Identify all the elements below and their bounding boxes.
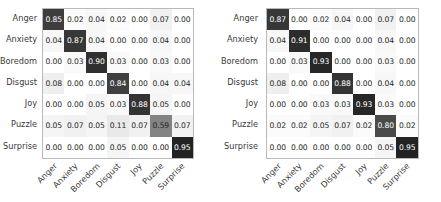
x-axis-tick-label: Joy: [353, 161, 369, 177]
heatmap-cell: 0.87: [64, 30, 85, 51]
heatmap-cell: 0.88: [332, 73, 354, 94]
x-axis-tick-labels-left: AngerAnxietyBoredomDisgustJoyPuzzleSurpr…: [42, 158, 194, 202]
heatmap-cell: 0.05: [86, 94, 107, 115]
heatmap-cell: 0.00: [396, 30, 418, 51]
heatmap-cell: 0.11: [107, 115, 128, 136]
heatmap-cell: 0.90: [86, 52, 107, 73]
heatmap-cell: 0.04: [172, 73, 193, 94]
heatmap-cell: 0.00: [289, 94, 311, 115]
y-axis-tick-labels-left: AngerAnxietyBoredomDisgustJoyPuzzleSurpr…: [0, 8, 40, 157]
heatmap-cell: 0.93: [353, 94, 375, 115]
heatmap-cell: 0.05: [107, 137, 128, 158]
heatmap-cell: 0.02: [64, 9, 85, 30]
heatmap-cell: 0.04: [267, 30, 289, 51]
heatmap-cell: 0.87: [267, 9, 289, 30]
y-axis-tick-label: Anger: [13, 8, 37, 29]
heatmap-cell: 0.00: [396, 94, 418, 115]
y-axis-tick-label: Boredom: [0, 51, 37, 72]
heatmap-grid-left: 0.850.020.040.020.000.070.000.040.870.04…: [42, 8, 194, 159]
heatmap-cell: 0.08: [43, 73, 64, 94]
heatmap-cell: 0.00: [396, 52, 418, 73]
heatmap-cell: 0.03: [332, 94, 354, 115]
heatmap-cell: 0.02: [267, 115, 289, 136]
heatmap-cell: 0.05: [150, 94, 171, 115]
heatmap-cell: 0.07: [150, 9, 171, 30]
heatmap-cell: 0.00: [172, 9, 193, 30]
heatmap-cell: 0.00: [353, 9, 375, 30]
heatmap-cell: 0.03: [310, 94, 332, 115]
heatmap-cell: 0.03: [64, 52, 85, 73]
heatmap-cell: 0.03: [107, 94, 128, 115]
heatmap-cell: 0.59: [150, 115, 171, 136]
heatmap-cell: 0.03: [107, 52, 128, 73]
heatmap-cell: 0.03: [150, 52, 171, 73]
heatmap-cell: 0.00: [129, 52, 150, 73]
heatmap-cell: 0.02: [310, 9, 332, 30]
heatmap-cell: 0.04: [86, 9, 107, 30]
y-axis-tick-label: Joy: [25, 93, 37, 114]
y-axis-tick-label: Disgust: [6, 72, 37, 93]
heatmap-cell: 0.00: [129, 30, 150, 51]
heatmap-cell: 0.00: [129, 9, 150, 30]
heatmap-cell: 0.91: [289, 30, 311, 51]
x-axis-tick-label: Joy: [129, 161, 145, 177]
heatmap-cell: 0.00: [396, 73, 418, 94]
heatmap-cell: 0.00: [289, 9, 311, 30]
heatmap-cell: 0.04: [375, 30, 397, 51]
heatmap-cell: 0.00: [107, 30, 128, 51]
heatmap-cell: 0.00: [353, 30, 375, 51]
heatmap-cell: 0.05: [310, 115, 332, 136]
y-axis-tick-label: Puzzle: [11, 114, 37, 135]
heatmap-cell: 0.00: [289, 137, 311, 158]
heatmap-cell: 0.95: [396, 137, 418, 158]
heatmap-cell: 0.04: [150, 73, 171, 94]
heatmap-cell: 0.85: [43, 9, 64, 30]
heatmap-cell: 0.00: [267, 137, 289, 158]
heatmap-cell: 0.00: [129, 137, 150, 158]
heatmap-grid-right: 0.870.000.020.040.000.070.000.040.910.00…: [266, 8, 419, 159]
heatmap-cell: 0.00: [332, 137, 354, 158]
heatmap-cell: 0.00: [172, 52, 193, 73]
heatmap-cell: 0.00: [267, 94, 289, 115]
confusion-matrix-figure: AngerAnxietyBoredomDisgustJoyPuzzleSurpr…: [0, 0, 441, 202]
y-axis-tick-label: Joy: [246, 93, 258, 114]
heatmap-cell: 0.00: [172, 30, 193, 51]
heatmap-cell: 0.00: [310, 137, 332, 158]
confusion-matrix-panel-right: AngerAnxietyBoredomDisgustJoyPuzzleSurpr…: [221, 0, 441, 202]
heatmap-cell: 0.07: [129, 115, 150, 136]
heatmap-cell: 0.93: [310, 52, 332, 73]
heatmap-cell: 0.00: [43, 94, 64, 115]
heatmap-cell: 0.02: [396, 115, 418, 136]
heatmap-cell: 0.00: [64, 73, 85, 94]
y-axis-tick-label: Disgust: [227, 72, 258, 93]
heatmap-cell: 0.05: [43, 115, 64, 136]
heatmap-cell: 0.02: [289, 115, 311, 136]
y-axis-tick-label: Anxiety: [227, 29, 258, 50]
heatmap-cell: 0.07: [64, 115, 85, 136]
heatmap-cell: 0.80: [375, 115, 397, 136]
heatmap-cell: 0.00: [310, 73, 332, 94]
y-axis-tick-label: Puzzle: [232, 114, 258, 135]
y-axis-tick-label: Boredom: [221, 51, 258, 72]
y-axis-tick-label: Anger: [234, 8, 258, 29]
heatmap-cell: 0.07: [375, 9, 397, 30]
heatmap-cell: 0.04: [375, 73, 397, 94]
heatmap-cell: 0.08: [267, 73, 289, 94]
heatmap-cell: 0.00: [64, 94, 85, 115]
y-axis-tick-label: Anxiety: [6, 29, 37, 50]
heatmap-cell: 0.00: [310, 30, 332, 51]
heatmap-cell: 0.00: [396, 9, 418, 30]
heatmap-cell: 0.84: [107, 73, 128, 94]
heatmap-cell: 0.03: [375, 94, 397, 115]
heatmap-cell: 0.00: [172, 94, 193, 115]
heatmap-cell: 0.88: [129, 94, 150, 115]
heatmap-cell: 0.00: [86, 73, 107, 94]
heatmap-cell: 0.00: [267, 52, 289, 73]
x-axis-tick-labels-right: AngerAnxietyBoredomDisgustJoyPuzzleSurpr…: [266, 158, 419, 202]
heatmap-cell: 0.04: [150, 30, 171, 51]
heatmap-cell: 0.02: [353, 115, 375, 136]
y-axis-tick-labels-right: AngerAnxietyBoredomDisgustJoyPuzzleSurpr…: [221, 8, 261, 157]
heatmap-cell: 0.07: [332, 115, 354, 136]
heatmap-cell: 0.00: [86, 137, 107, 158]
heatmap-cell: 0.00: [353, 137, 375, 158]
